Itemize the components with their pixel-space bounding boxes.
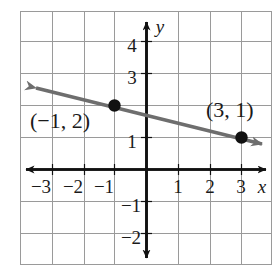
x-axis-name: x [258, 177, 266, 196]
x-tick-label--3: −3 [31, 177, 51, 196]
x-tick-label-1: 1 [173, 177, 183, 196]
x-tick-label-3: 3 [236, 177, 246, 196]
graph-figure: 4 3 1 −1 −2 −3 −2 −1 1 2 3 x y (−1, 2) (… [0, 0, 273, 269]
y-tick-label--2: −2 [121, 228, 141, 247]
x-tick-label--2: −2 [63, 177, 83, 196]
y-tick-label-3: 3 [127, 68, 137, 87]
y-tick-label-1: 1 [127, 132, 137, 151]
data-point-a [108, 99, 120, 111]
point-label-b: (3, 1) [206, 99, 254, 121]
y-axis-name: y [156, 17, 164, 36]
x-tick-label-2: 2 [205, 177, 215, 196]
y-tick-label-4: 4 [127, 36, 137, 55]
point-label-a: (−1, 2) [30, 110, 90, 132]
data-point-b [235, 131, 247, 143]
y-tick-label--1: −1 [121, 196, 141, 215]
x-tick-label--1: −1 [94, 177, 114, 196]
